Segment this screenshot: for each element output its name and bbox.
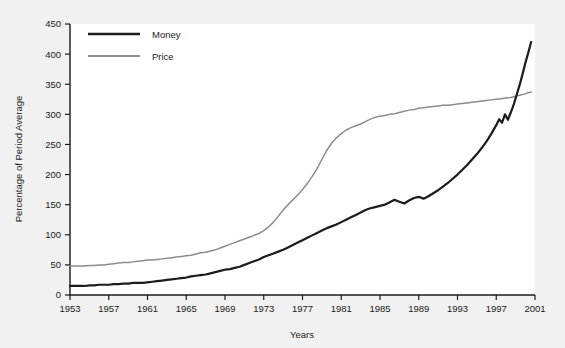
x-tick-label: 1977: [292, 303, 313, 314]
x-tick-label: 1969: [214, 303, 235, 314]
legend-label-money: Money: [152, 29, 181, 40]
chart-figure: 050100150200250300350400450 195319571961…: [0, 0, 565, 348]
line-chart: 050100150200250300350400450 195319571961…: [0, 0, 565, 348]
y-tick-label: 100: [45, 229, 61, 240]
x-tick-label: 1973: [253, 303, 274, 314]
y-tick-label: 300: [45, 109, 61, 120]
x-tick-label: 1989: [408, 303, 429, 314]
x-tick-label: 1953: [59, 303, 80, 314]
x-tick-label: 1997: [486, 303, 507, 314]
x-tick-label: 1961: [137, 303, 158, 314]
plot-area-background: [70, 24, 535, 295]
y-axis-title: Percentage of Period Average: [13, 96, 24, 223]
y-tick-label: 50: [50, 259, 61, 270]
x-tick-label: 1981: [331, 303, 352, 314]
y-tick-label: 450: [45, 18, 61, 29]
x-tick-label: 1957: [98, 303, 119, 314]
y-tick-label: 0: [56, 289, 61, 300]
y-tick-label: 200: [45, 169, 61, 180]
x-tick-label: 1965: [176, 303, 197, 314]
y-tick-label: 150: [45, 199, 61, 210]
x-tick-label: 1985: [369, 303, 390, 314]
x-axis-title: Years: [290, 329, 314, 340]
x-tick-label: 2001: [524, 303, 545, 314]
y-tick-label: 400: [45, 49, 61, 60]
y-tick-label: 350: [45, 79, 61, 90]
y-tick-label: 250: [45, 139, 61, 150]
legend-label-price: Price: [152, 51, 174, 62]
x-tick-label: 1993: [447, 303, 468, 314]
